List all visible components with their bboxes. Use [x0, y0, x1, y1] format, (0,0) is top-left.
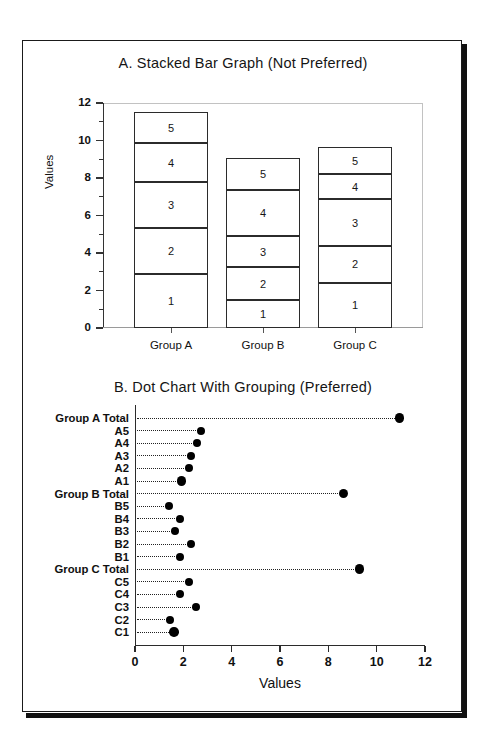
- dot-chart-leader-line: [137, 531, 172, 532]
- bar-chart-y-tick: [96, 177, 103, 178]
- dot-chart-x-tick: [376, 646, 377, 652]
- stacked-bar-segment: 1: [318, 283, 392, 328]
- dot-chart-row-label: A4: [19, 437, 129, 449]
- dot-chart-marker: [339, 489, 349, 499]
- stacked-bar: 12345: [226, 103, 300, 328]
- dot-chart-marker: [193, 439, 201, 447]
- stacked-bar: 12345: [318, 103, 392, 328]
- bar-chart-y-tick-label: 12: [51, 96, 91, 108]
- bar-chart-y-tick-label: 6: [51, 209, 91, 221]
- stacked-bar-segment: 2: [318, 246, 392, 283]
- dot-chart-x-tick-label: 4: [212, 655, 252, 669]
- dot-chart-row: B2: [135, 538, 425, 550]
- dot-chart-row: A4: [135, 437, 425, 449]
- bar-chart-y-minor-tick: [99, 121, 103, 122]
- dot-chart-row: C2: [135, 614, 425, 626]
- dot-chart-row-label: B1: [19, 551, 129, 563]
- dot-chart-marker: [192, 603, 200, 611]
- bar-chart-plot-area: 024681012 123451234512345 Group AGroup B…: [103, 103, 423, 328]
- bar-chart-y-minor-tick: [99, 309, 103, 310]
- dot-chart-plot-area: Group A TotalA5A4A3A2A1Group B TotalB5B4…: [135, 409, 425, 641]
- bar-chart-axis-right: [422, 103, 423, 328]
- bar-chart-y-tick: [96, 140, 103, 141]
- dot-chart-x-tick-label: 0: [115, 655, 155, 669]
- dot-chart-leader-line: [137, 468, 186, 469]
- bar-chart-x-tick: [263, 328, 264, 333]
- dot-chart-row: B4: [135, 513, 425, 525]
- dot-chart-row: B1: [135, 551, 425, 563]
- dot-chart-row: C1: [135, 626, 425, 638]
- dot-chart-row: A5: [135, 425, 425, 437]
- dot-chart-row-label: C3: [19, 601, 129, 613]
- dot-chart-leader-line: [137, 619, 167, 620]
- dot-chart-leader-line: [137, 430, 198, 431]
- dot-chart-row: A3: [135, 450, 425, 462]
- panel-b-title: B. Dot Chart With Grouping (Preferred): [23, 379, 463, 395]
- dot-chart-row-label: Group A Total: [19, 412, 129, 424]
- bar-chart-y-tick-label: 4: [51, 246, 91, 258]
- bar-chart-x-tick: [355, 328, 356, 333]
- dot-chart-x-axis-title: Values: [135, 675, 425, 691]
- dot-chart-marker: [197, 427, 205, 435]
- stacked-bar-segment: 4: [318, 174, 392, 199]
- dot-chart-row-label: B3: [19, 525, 129, 537]
- bar-chart-y-tick-label: 10: [51, 134, 91, 146]
- stacked-bar-segment: 1: [226, 300, 300, 328]
- dot-chart-marker: [187, 540, 195, 548]
- dot-chart-row: C3: [135, 601, 425, 613]
- dot-chart-row-label: B4: [19, 513, 129, 525]
- dot-chart-row: B3: [135, 525, 425, 537]
- dot-chart-leader-line: [137, 607, 193, 608]
- dot-chart-marker: [171, 527, 179, 535]
- dot-chart-leader-line: [137, 569, 356, 570]
- panel-dot-chart: B. Dot Chart With Grouping (Preferred) G…: [23, 371, 463, 713]
- dot-chart-row: C4: [135, 588, 425, 600]
- dot-chart-row-label: A3: [19, 450, 129, 462]
- dot-chart-row: Group C Total: [135, 563, 425, 575]
- frame-shadow-bottom: [26, 713, 467, 718]
- dot-chart-row-label: A1: [19, 475, 129, 487]
- dot-chart-x-tick-label: 2: [163, 655, 203, 669]
- dot-chart-x-tick: [424, 646, 425, 652]
- bar-chart-y-minor-tick: [99, 271, 103, 272]
- dot-chart-x-tick: [279, 646, 280, 652]
- bar-chart-y-minor-tick: [99, 159, 103, 160]
- dot-chart-x-tick-label: 12: [405, 655, 445, 669]
- stacked-bar-segment: 2: [134, 228, 208, 274]
- dot-chart-row-label: A2: [19, 462, 129, 474]
- dot-chart-row-label: C4: [19, 588, 129, 600]
- dot-chart-marker: [176, 553, 184, 561]
- dot-chart-row: A1: [135, 475, 425, 487]
- dot-chart-row-label: A5: [19, 425, 129, 437]
- dot-chart-row: B5: [135, 500, 425, 512]
- bar-chart-y-tick: [96, 215, 103, 216]
- dot-chart-leader-line: [137, 443, 194, 444]
- bar-chart-y-minor-tick: [99, 196, 103, 197]
- dot-chart-row: A2: [135, 462, 425, 474]
- bar-chart-y-tick-label: 8: [51, 171, 91, 183]
- dot-chart-marker: [355, 564, 365, 574]
- dot-chart-x-tick-label: 6: [260, 655, 300, 669]
- dot-chart-marker: [395, 413, 405, 423]
- dot-chart-x-tick: [183, 646, 184, 652]
- dot-chart-row-label: Group C Total: [19, 563, 129, 575]
- bar-chart-y-tick-label: 2: [51, 284, 91, 296]
- dot-chart-marker: [185, 578, 193, 586]
- stacked-bar-segment: 4: [226, 190, 300, 236]
- dot-chart-row-label: Group B Total: [19, 488, 129, 500]
- panel-stacked-bar-graph: A. Stacked Bar Graph (Not Preferred) Val…: [23, 41, 463, 371]
- dot-chart-x-tick: [134, 646, 135, 652]
- dot-chart-leader-line: [137, 418, 397, 419]
- bar-chart-y-tick: [96, 290, 103, 291]
- dot-chart-marker: [165, 502, 173, 510]
- dot-chart-row-label: B2: [19, 538, 129, 550]
- bar-chart-y-tick: [96, 102, 103, 103]
- dot-chart-leader-line: [137, 518, 177, 519]
- dot-chart-marker: [187, 452, 195, 460]
- dot-chart-row-label: C1: [19, 626, 129, 638]
- stacked-bar-segment: 5: [226, 158, 300, 190]
- dot-chart-row-label: C5: [19, 576, 129, 588]
- bar-chart-y-tick-label: 0: [51, 321, 91, 333]
- bar-chart-y-minor-tick: [99, 234, 103, 235]
- dot-chart-marker: [176, 590, 184, 598]
